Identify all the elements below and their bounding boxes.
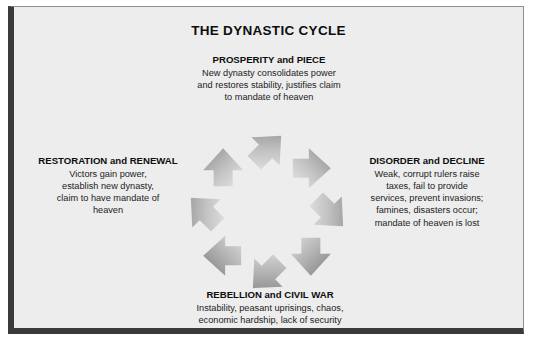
stage-restoration-body: Victors gain power, establish new dynast… — [32, 168, 184, 217]
diagram-frame: THE DYNASTIC CYCLE — [8, 6, 524, 334]
stage-prosperity-line: New dynasty consolidates power — [151, 67, 387, 79]
stage-prosperity-body: New dynasty consolidates power and resto… — [151, 67, 387, 103]
stage-prosperity-heading: PROSPERITY and PIECE — [151, 54, 387, 66]
stage-restoration-line: claim to have mandate of — [32, 192, 184, 204]
page-title: THE DYNASTIC CYCLE — [14, 23, 523, 38]
stage-disorder-body: Weak, corrupt rulers raise taxes, fail t… — [344, 168, 510, 229]
stage-rebellion-body: Instability, peasant uprisings, chaos, e… — [154, 302, 386, 326]
stage-rebellion-line: economic hardship, lack of security — [154, 314, 386, 326]
stage-rebellion-line: Instability, peasant uprisings, chaos, — [154, 302, 386, 314]
cycle-arrow-ring — [177, 122, 357, 302]
stage-prosperity: PROSPERITY and PIECE New dynasty consoli… — [151, 54, 387, 103]
stage-disorder-line: Weak, corrupt rulers raise — [344, 168, 510, 180]
diagram-canvas: THE DYNASTIC CYCLE — [14, 7, 523, 328]
stage-restoration: RESTORATION and RENEWAL Victors gain pow… — [32, 155, 184, 217]
stage-disorder-line: services, prevent invasions; — [344, 192, 510, 204]
stage-disorder-line: mandate of heaven is lost — [344, 217, 510, 229]
stage-restoration-line: establish new dynasty, — [32, 180, 184, 192]
cycle-arrow-group — [177, 122, 357, 302]
stage-prosperity-line: and restores stability, justifies claim — [151, 79, 387, 91]
stage-disorder-heading: DISORDER and DECLINE — [344, 155, 510, 167]
stage-restoration-line: Victors gain power, — [32, 168, 184, 180]
stage-disorder: DISORDER and DECLINE Weak, corrupt ruler… — [344, 155, 510, 229]
stage-restoration-line: heaven — [32, 204, 184, 216]
stage-prosperity-line: to mandate of heaven — [151, 91, 387, 103]
stage-disorder-line: taxes, fail to provide — [344, 180, 510, 192]
stage-disorder-line: famines, disasters occur; — [344, 204, 510, 216]
stage-rebellion-heading: REBELLION and CIVIL WAR — [154, 289, 386, 301]
stage-restoration-heading: RESTORATION and RENEWAL — [32, 155, 184, 167]
stage-rebellion: REBELLION and CIVIL WAR Instability, pea… — [154, 289, 386, 326]
